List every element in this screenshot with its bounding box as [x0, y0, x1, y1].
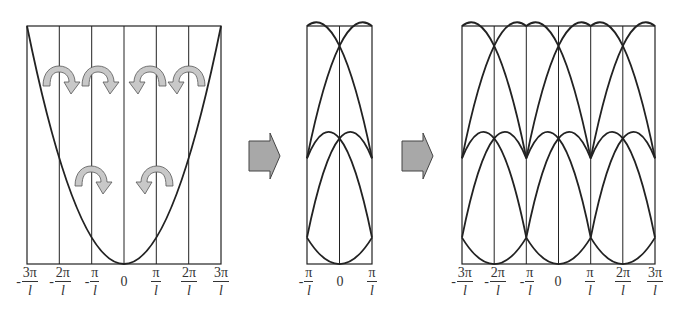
tick-label: -πl	[509, 266, 545, 298]
curved-arrow-icon	[168, 66, 205, 94]
tick-label: 3πl	[208, 266, 234, 298]
tick-label: 3πl	[642, 266, 668, 298]
curved-arrow-icon	[43, 66, 80, 94]
repeated-zone-panel	[462, 22, 655, 264]
tick-label: -πl	[290, 266, 322, 298]
tick-label: 0	[548, 266, 568, 289]
extended-zone-panel	[27, 26, 221, 264]
curved-arrow-icon	[75, 166, 112, 194]
right-arrow-icon	[402, 133, 433, 179]
tick-label: πl	[578, 266, 602, 298]
curved-arrow-icon	[136, 166, 173, 194]
tick-label: 0	[330, 266, 350, 289]
tick-label: πl	[360, 266, 384, 298]
tick-label: -πl	[74, 266, 110, 298]
tick-label: 2πl	[176, 266, 202, 298]
tick-label: 2πl	[610, 266, 636, 298]
reduced-zone-panel	[307, 22, 372, 264]
tick-label: πl	[144, 266, 168, 298]
right-arrow-icon	[249, 133, 280, 179]
tick-label: 0	[114, 266, 134, 289]
curved-arrow-icon	[129, 66, 166, 94]
zone-boundaries	[59, 26, 188, 264]
curved-arrow-icon	[82, 66, 119, 94]
